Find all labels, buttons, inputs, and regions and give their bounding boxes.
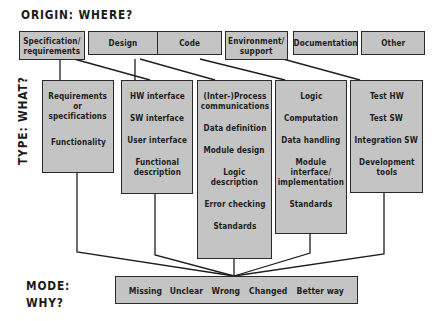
type-box-design: HW interface SW interface User interface… [121, 80, 193, 194]
mode-item-missing: Missing [128, 285, 161, 296]
type-item: Module design [204, 145, 265, 155]
type-box-support-tools: Test HW Test SW Integration SW Developme… [350, 80, 423, 193]
origin-label: Environment/ support [228, 36, 284, 56]
type-item: Computation [284, 113, 338, 123]
type-item: (Inter-)Process communications [200, 91, 268, 111]
origin-label: Design [109, 38, 138, 48]
origin-label: Other [381, 38, 405, 48]
type-item: Data handling [281, 135, 340, 145]
mode-heading: MODE: WHY? [26, 277, 78, 311]
origin-box-environment: Environment/ support [225, 31, 288, 60]
type-item: HW interface [130, 91, 185, 101]
type-item: Test HW [370, 91, 404, 101]
origin-box-specification: Specification/ requirements [19, 31, 85, 60]
origin-box-documentation: Documentation [293, 31, 358, 55]
type-box-code: (Inter-)Process communications Data defi… [197, 80, 272, 259]
type-item: Error checking [204, 199, 265, 209]
mode-item-better-way: Better way [297, 285, 344, 296]
type-item: SW interface [130, 113, 184, 123]
origin-box-code: Code [157, 31, 222, 55]
type-item: Data definition [203, 123, 266, 133]
type-item: Standards [290, 199, 333, 209]
defect-classification-diagram: ORIGIN: WHERE? TYPE: WHAT? MODE: WHY? Sp… [0, 0, 444, 321]
mode-item-wrong: Wrong [212, 285, 240, 296]
type-item: Module interface/ implementation [278, 157, 344, 187]
type-box-environment: Logic Computation Data handling Module i… [275, 80, 347, 234]
origin-heading: ORIGIN: WHERE? [21, 7, 133, 22]
origin-label: Specification/ requirements [23, 36, 80, 56]
type-box-requirements: Requirements or specifications Functiona… [42, 80, 114, 173]
type-item: Functionality [51, 137, 106, 147]
mode-heading-line1: MODE: [26, 277, 70, 294]
origin-box-other: Other [361, 31, 425, 55]
type-item: Requirements or specifications [49, 91, 108, 121]
type-item: Standards [213, 221, 256, 231]
type-item: Logic [300, 91, 322, 101]
type-item: Integration SW [355, 135, 418, 145]
mode-item-changed: Changed [249, 285, 287, 296]
type-heading: TYPE: WHAT? [15, 76, 30, 165]
type-item: Development tools [359, 157, 415, 177]
origin-box-design: Design [88, 31, 158, 55]
mode-heading-line2: WHY? [26, 294, 70, 311]
origin-label: Documentation [293, 38, 357, 48]
type-item: Test SW [370, 113, 403, 123]
type-item: Functional description [133, 157, 180, 177]
origin-label: Code [179, 38, 200, 48]
mode-bar: Missing Unclear Wrong Changed Better way [115, 276, 358, 304]
type-item: Logic description [211, 167, 258, 187]
type-item: User interface [127, 135, 187, 145]
mode-item-unclear: Unclear [170, 285, 203, 296]
